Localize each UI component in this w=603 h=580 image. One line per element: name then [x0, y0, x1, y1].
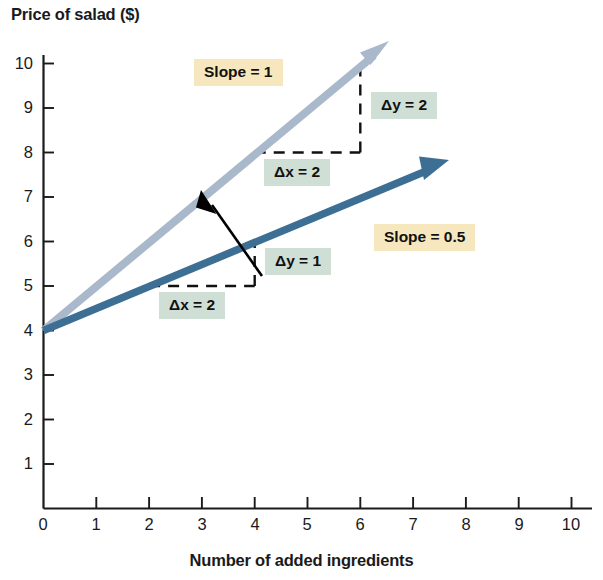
- y-tick-label-5: 5: [7, 276, 33, 295]
- x-tick-label-7: 7: [398, 515, 428, 534]
- y-tick-label-4: 4: [7, 321, 33, 340]
- axis-lines: [44, 55, 593, 509]
- plot-area: [0, 0, 603, 580]
- x-tick-label-3: 3: [187, 515, 217, 534]
- annotation-delta-x-upper: Δx = 2: [264, 159, 330, 186]
- y-axis-ticks: [44, 64, 55, 465]
- x-tick-label-2: 2: [134, 515, 164, 534]
- x-tick-label-10: 10: [556, 515, 586, 534]
- annotation-slope-1: Slope = 1: [194, 59, 283, 86]
- y-tick-label-6: 6: [7, 232, 33, 251]
- chart-figure: Price of salad ($): [0, 0, 603, 580]
- y-tick-label-3: 3: [7, 365, 33, 384]
- y-tick-label-1: 1: [7, 454, 33, 473]
- y-tick-label-10: 10: [7, 54, 33, 73]
- x-tick-label-6: 6: [345, 515, 375, 534]
- annotation-delta-y-lower: Δy = 1: [265, 248, 331, 275]
- annotation-delta-y-upper: Δy = 2: [371, 92, 437, 119]
- x-tick-label-9: 9: [504, 515, 534, 534]
- x-tick-label-8: 8: [451, 515, 481, 534]
- y-tick-label-2: 2: [7, 410, 33, 429]
- x-axis-ticks: [96, 497, 571, 509]
- x-axis-title: Number of added ingredients: [0, 551, 603, 570]
- x-tick-label-4: 4: [240, 515, 270, 534]
- y-tick-label-8: 8: [7, 143, 33, 162]
- y-tick-label-9: 9: [7, 98, 33, 117]
- y-tick-label-7: 7: [7, 187, 33, 206]
- x-tick-label-0: 0: [28, 515, 58, 534]
- annotation-delta-x-lower: Δx = 2: [159, 292, 225, 319]
- annotation-slope-05: Slope = 0.5: [374, 224, 475, 251]
- x-tick-label-5: 5: [292, 515, 322, 534]
- x-tick-label-1: 1: [81, 515, 111, 534]
